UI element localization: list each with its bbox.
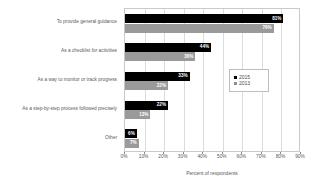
bar-fill: 7% (125, 139, 139, 148)
category-label: To provide general guidance (57, 20, 117, 25)
bar-2013[interactable]: 22% (125, 81, 168, 90)
legend-swatch-2013-icon (234, 82, 237, 85)
legend-swatch-2015-icon (234, 76, 237, 79)
bar-2015[interactable]: 22% (125, 101, 168, 110)
x-axis-tick-label: 20% (158, 155, 168, 160)
chart-legend: 2015 2013 (229, 69, 269, 92)
x-axis-tick-label: 0% (121, 155, 128, 160)
category-label: As a way to monitor or track progress (38, 77, 117, 82)
x-axis-tick-label: 40% (197, 155, 207, 160)
bar-2015[interactable]: 44% (125, 43, 211, 52)
x-axis-tick-label: 10% (139, 155, 149, 160)
bar-group: 6%7% (125, 124, 299, 153)
bar-fill: 81% (125, 14, 283, 23)
bar-fill: 33% (125, 72, 190, 81)
legend-item[interactable]: 2013 (234, 81, 264, 86)
legend-label: 2015 (239, 75, 250, 80)
x-axis-tick-label: 50% (217, 155, 227, 160)
x-axis-tick-label: 30% (178, 155, 188, 160)
bar-value-label: 6% (128, 132, 135, 137)
bar-value-label: 22% (157, 103, 166, 108)
x-axis: 0%10%20%30%40%50%60%70%80%90% (124, 152, 300, 164)
legend-item[interactable]: 2015 (234, 75, 264, 80)
bar-2013[interactable]: 36% (125, 52, 195, 61)
bar-2013[interactable]: 76% (125, 24, 274, 33)
bar-2013[interactable]: 13% (125, 110, 150, 119)
plot-area: 81%76%44%36%33%22%22%13%6%7% (124, 8, 300, 152)
bar-2015[interactable]: 6% (125, 129, 137, 138)
legend-label: 2013 (239, 81, 250, 86)
category-label: As a step-by-step process followed preci… (22, 106, 117, 111)
category-label: As a checklist for activities (61, 49, 117, 54)
x-axis-tick-label: 90% (295, 155, 305, 160)
bar-value-label: 44% (200, 45, 209, 50)
bar-value-label: 7% (130, 141, 137, 146)
bar-value-label: 33% (178, 74, 187, 79)
bar-group: 22%13% (125, 95, 299, 124)
bar-2015[interactable]: 81% (125, 14, 283, 23)
category-label: Other (105, 135, 117, 140)
bar-fill: 22% (125, 81, 168, 90)
bar-fill: 36% (125, 52, 195, 61)
x-axis-title: Percent of respondents (124, 170, 300, 176)
bar-2015[interactable]: 33% (125, 72, 190, 81)
bar-group: 44%36% (125, 38, 299, 67)
bar-fill: 44% (125, 43, 211, 52)
bar-value-label: 22% (157, 83, 166, 88)
x-axis-tick-label: 80% (276, 155, 286, 160)
bar-group: 81%76% (125, 9, 299, 38)
x-axis-tick-label: 70% (256, 155, 266, 160)
bar-2013[interactable]: 7% (125, 139, 139, 148)
bar-value-label: 81% (272, 16, 281, 21)
horizontal-bar-chart: To provide general guidanceAs a checklis… (0, 0, 317, 186)
bar-fill: 22% (125, 101, 168, 110)
x-axis-tick-label: 60% (237, 155, 247, 160)
bar-fill: 6% (125, 129, 137, 138)
bar-fill: 76% (125, 24, 274, 33)
bar-fill: 13% (125, 110, 150, 119)
bar-value-label: 13% (139, 112, 148, 117)
bar-group: 33%22% (125, 67, 299, 96)
category-axis-labels: To provide general guidanceAs a checklis… (0, 8, 120, 152)
bar-value-label: 76% (262, 26, 271, 31)
bar-value-label: 36% (184, 55, 193, 60)
